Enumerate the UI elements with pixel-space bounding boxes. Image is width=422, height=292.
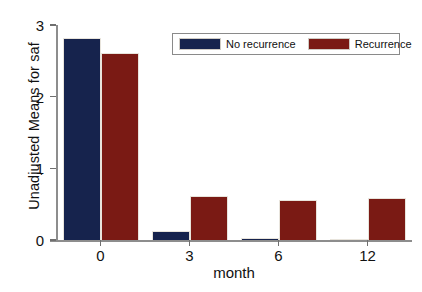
- y-tick-1: [50, 168, 56, 170]
- y-tick-label-3: 3: [14, 17, 44, 34]
- y-tick-0: [50, 239, 56, 241]
- bar-0-no-recurrence: [63, 38, 101, 240]
- x-tick-6: [278, 240, 280, 246]
- legend-entry-no-recurrence: No recurrence: [179, 38, 296, 50]
- x-axis-line: [50, 240, 412, 242]
- legend-swatch-no-recurrence: [179, 38, 221, 50]
- legend-label-recurrence: Recurrence: [355, 38, 412, 50]
- legend-label-no-recurrence: No recurrence: [226, 38, 296, 50]
- y-tick-2: [50, 96, 56, 98]
- bar-6-no-recurrence: [241, 238, 279, 240]
- x-tick-3: [189, 240, 191, 246]
- x-tick-label-6: 6: [259, 247, 299, 264]
- bar-12-no-recurrence: [330, 239, 368, 240]
- x-tick-label-0: 0: [81, 247, 121, 264]
- x-tick-0: [100, 240, 102, 246]
- y-axis-label: Unadjusted Means for saf: [26, 16, 42, 236]
- bar-12-recurrence: [368, 198, 406, 240]
- bar-6-recurrence: [279, 200, 317, 240]
- y-tick-label-1: 1: [14, 160, 44, 177]
- y-tick-3: [50, 24, 56, 26]
- x-tick-label-12: 12: [348, 247, 388, 264]
- legend-swatch-recurrence: [308, 38, 350, 50]
- plot-area: 0123 03612: [56, 25, 412, 240]
- y-tick-label-0: 0: [14, 232, 44, 249]
- chart-legend: No recurrenceRecurrence: [172, 33, 400, 55]
- x-tick-12: [367, 240, 369, 246]
- y-axis-line: [56, 25, 58, 240]
- legend-entry-recurrence: Recurrence: [308, 38, 412, 50]
- y-tick-label-2: 2: [14, 88, 44, 105]
- bar-0-recurrence: [101, 53, 139, 240]
- x-tick-label-3: 3: [170, 247, 210, 264]
- bar-3-recurrence: [190, 196, 228, 240]
- bar-3-no-recurrence: [152, 231, 190, 240]
- bar-chart-figure: Unadjusted Means for saf 0123 03612 mont…: [0, 0, 422, 292]
- x-axis-label: month: [56, 264, 412, 281]
